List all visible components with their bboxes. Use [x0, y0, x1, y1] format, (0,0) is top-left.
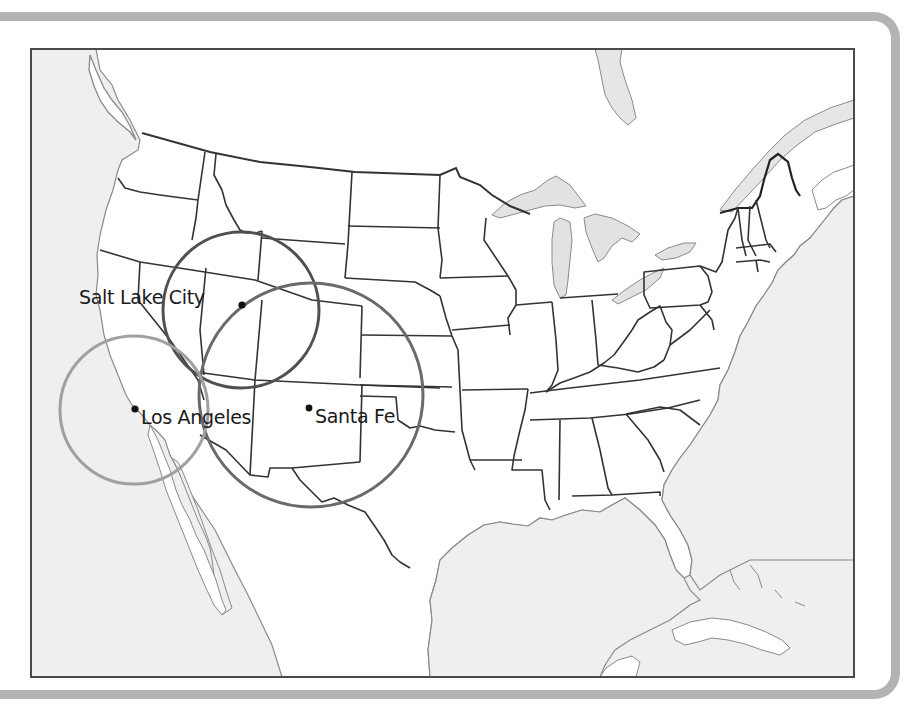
city-dot-los-angeles: [131, 405, 138, 412]
label-salt-lake-city: Salt Lake City: [79, 288, 205, 307]
label-los-angeles: Los Angeles: [141, 408, 251, 427]
city-dot-salt-lake-city: [238, 301, 245, 308]
us-outline-map: [0, 0, 919, 717]
label-santa-fe: Santa Fe: [315, 407, 395, 426]
city-dot-santa-fe: [306, 405, 313, 412]
